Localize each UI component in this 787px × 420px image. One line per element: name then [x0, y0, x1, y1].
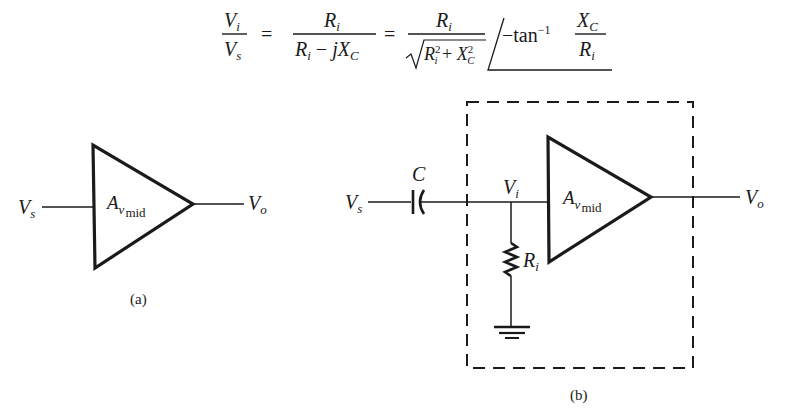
- caption-b: (b): [570, 388, 588, 403]
- gain-label-a: Avmid: [107, 193, 146, 219]
- input-label-b: Vs: [345, 192, 362, 215]
- output-label-a: Vo: [248, 193, 267, 216]
- circuit-b: [368, 102, 740, 368]
- capacitor-label: C: [412, 164, 425, 184]
- gain-label-b: Avmid: [563, 188, 602, 214]
- resistor-label: Ri: [523, 250, 539, 273]
- input-label-a: Vs: [18, 197, 35, 220]
- resistor-zigzag: [505, 243, 517, 276]
- caption-a: (a): [130, 292, 147, 307]
- output-label-b: Vo: [745, 187, 764, 210]
- node-voltage-label: Vi: [503, 177, 519, 200]
